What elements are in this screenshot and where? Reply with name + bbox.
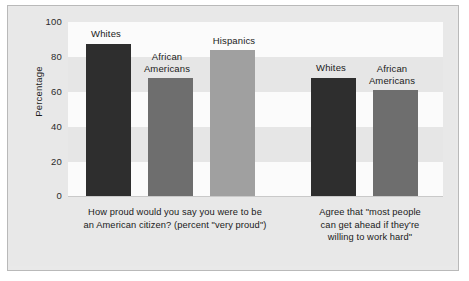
y-tick-100: 100: [2, 17, 62, 27]
bar-chart-figure: 100 80 60 40 20 0 Percentage Whites Afri…: [0, 0, 469, 281]
bar-group2-african-americans: [373, 90, 418, 197]
plot-area: [68, 22, 443, 197]
y-tick-0: 0: [2, 191, 62, 201]
bar-group1-hispanics: [210, 50, 255, 197]
caption-group1: How proud would you say you were to be a…: [62, 206, 288, 231]
bar-group1-african-americans: [148, 78, 193, 197]
y-axis-title: Percentage: [33, 42, 44, 142]
y-axis-ticks: 100 80 60 40 20 0: [0, 0, 62, 281]
bar-label-group2-african-americans: African Americans: [359, 63, 425, 86]
y-tick-20: 20: [2, 157, 62, 167]
bar-label-group2-whites: Whites: [301, 62, 361, 74]
bar-label-group1-african-americans: African Americans: [134, 51, 200, 74]
x-axis-baseline: [68, 196, 443, 197]
bar-label-group1-hispanics: Hispanics: [198, 35, 270, 47]
bar-group2-whites: [311, 78, 356, 197]
bar-group1-whites: [86, 44, 131, 197]
caption-group2: Agree that "most people can get ahead if…: [301, 206, 439, 244]
bar-label-group1-whites: Whites: [76, 28, 136, 40]
